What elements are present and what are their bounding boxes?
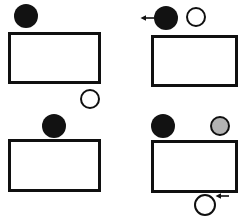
panel-top-right-black-circle: [154, 6, 178, 30]
panel-top-right-rectangle: [151, 35, 238, 87]
panel-top-left-rectangle: [8, 32, 101, 84]
panel-bottom-right-label: below rectangle, with leftward arrow at …: [0, 0, 1, 1]
panel-top-left-black-circle: [14, 4, 38, 28]
panel-top-right-white-circle: [186, 7, 206, 27]
left-arrow-icon: [140, 11, 155, 25]
panel-bottom-right-gray-circle: [210, 116, 230, 136]
left-arrow-icon: [215, 189, 230, 203]
panel-bottom-left-label: above rectangle, centered: [0, 0, 1, 1]
panel-bottom-left-black-circle: [42, 114, 66, 138]
panel-bottom-right-white-circle: [194, 194, 216, 216]
figure-canvas: 2x2 grid of panels, each panel shows a w…: [0, 0, 247, 219]
panel-top-right-label: above rectangle, left side, with leftwar…: [0, 0, 1, 1]
panel-top-left-label: above rectangle, left side: [0, 0, 1, 1]
panel-top-left-white-circle: [80, 89, 100, 109]
panel-bottom-right-rectangle: [151, 140, 238, 193]
panel-bottom-left-rectangle: [8, 139, 101, 192]
panel-bottom-right-black-circle: [151, 114, 175, 138]
figure-layout-description: 2x2 grid of panels, each panel shows a w…: [0, 0, 1, 1]
